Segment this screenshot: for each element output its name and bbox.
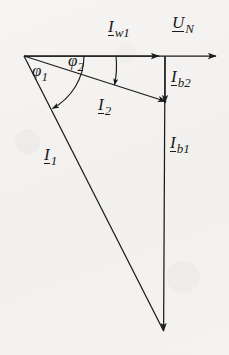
label-phi1-subscript: 1 [41, 69, 48, 84]
label-u-n: UN [172, 14, 193, 32]
label-i-1: I1 [44, 146, 56, 164]
label-i-b1-symbol: I [170, 134, 176, 152]
label-i-w1-symbol: I [108, 18, 114, 36]
label-phi1: φ1 [32, 62, 48, 79]
vector-i-1 [24, 56, 164, 331]
label-i-b1-subscript: b1 [177, 141, 190, 156]
phasor-diagram-canvas: Iw1 UN Ib2 I2 Ib1 I1 φ1 φ2 [0, 0, 229, 355]
label-i-b2-subscript: b2 [178, 75, 191, 90]
label-i-b1: Ib1 [170, 134, 189, 152]
label-phi2-subscript: 2 [77, 59, 84, 74]
label-phi1-symbol: φ [32, 61, 41, 80]
label-u-n-symbol: U [172, 14, 184, 32]
label-i-2-subscript: 2 [105, 103, 112, 118]
label-i-w1: Iw1 [108, 18, 129, 36]
label-i-1-symbol: I [44, 146, 50, 164]
phasor-diagram-graphic [0, 0, 229, 355]
label-phi2-symbol: φ [68, 51, 77, 70]
label-i-b2: Ib2 [171, 68, 190, 86]
label-phi2: φ2 [68, 52, 84, 69]
label-i-b2-symbol: I [171, 68, 177, 86]
label-i-2-symbol: I [98, 96, 104, 114]
label-u-n-subscript: N [185, 21, 194, 36]
label-i-w1-subscript: w1 [115, 25, 130, 40]
label-i-1-subscript: 1 [51, 153, 58, 168]
label-i-2: I2 [98, 96, 110, 114]
angle-arc-phi2 [115, 56, 117, 85]
